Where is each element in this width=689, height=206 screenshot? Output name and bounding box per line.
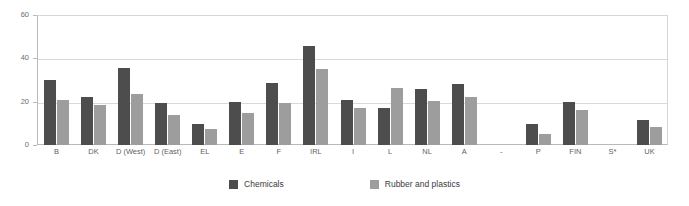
- y-axis: 0204060: [0, 0, 37, 160]
- bar: [576, 110, 588, 145]
- bar-group: [341, 15, 366, 145]
- bar: [81, 97, 93, 145]
- x-tick-label: I: [352, 148, 354, 156]
- bar: [266, 83, 278, 145]
- legend-item[interactable]: Rubber and plastics: [370, 180, 460, 189]
- legend-swatch-icon: [370, 180, 379, 189]
- bar-group: [303, 15, 328, 145]
- x-tick-label: A: [462, 148, 467, 156]
- legend-label: Rubber and plastics: [385, 180, 460, 189]
- bar-group: [118, 15, 143, 145]
- bar-group: [600, 15, 625, 145]
- bar: [391, 88, 403, 145]
- x-tick-label: IRL: [310, 148, 322, 156]
- bar-group: [229, 15, 254, 145]
- bar-group: [155, 15, 180, 145]
- x-axis: BDKD (West)D (East)ELEFIRLILNLA-PFINS*UK: [38, 148, 668, 162]
- bar-group: [81, 15, 106, 145]
- bar: [192, 124, 204, 145]
- x-tick-label: B: [54, 148, 59, 156]
- y-tick-label-0: 0: [25, 141, 29, 149]
- bar: [131, 94, 143, 145]
- bar: [539, 134, 551, 145]
- chart-legend: ChemicalsRubber and plastics: [0, 176, 689, 192]
- y-tick-label-60: 60: [21, 11, 29, 19]
- x-tick-label: -: [500, 148, 503, 156]
- bar-group: [378, 15, 403, 145]
- bar: [155, 103, 167, 145]
- bar: [378, 108, 390, 145]
- x-tick-label: L: [388, 148, 392, 156]
- bar-group: [44, 15, 69, 145]
- bar: [57, 100, 69, 146]
- bar: [316, 69, 328, 145]
- legend-swatch-icon: [229, 180, 238, 189]
- bar-group: [563, 15, 588, 145]
- bar: [465, 97, 477, 145]
- x-tick-label: NL: [422, 148, 432, 156]
- bar: [118, 68, 130, 145]
- bar-group: [415, 15, 440, 145]
- bar-group: [489, 15, 514, 145]
- x-tick-label: DK: [88, 148, 98, 156]
- x-tick-label: P: [536, 148, 541, 156]
- bar-group: [452, 15, 477, 145]
- bar: [526, 124, 538, 145]
- y-tick-mark-0: [33, 145, 37, 146]
- bar: [415, 89, 427, 145]
- bar: [168, 115, 180, 145]
- bar-chart: 0204060 BDKD (West)D (East)ELEFIRLILNLA-…: [0, 0, 689, 206]
- y-tick-label-40: 40: [21, 55, 29, 63]
- bar: [279, 103, 291, 145]
- bar: [428, 101, 440, 145]
- bar: [205, 129, 217, 145]
- bar: [94, 105, 106, 145]
- bar: [637, 120, 649, 145]
- x-tick-label: EL: [200, 148, 209, 156]
- bar-group: [266, 15, 291, 145]
- bar: [563, 102, 575, 145]
- bar: [242, 113, 254, 146]
- bar: [452, 84, 464, 145]
- x-tick-label: S*: [608, 148, 616, 156]
- bar-group: [637, 15, 662, 145]
- legend-label: Chemicals: [244, 180, 284, 189]
- bar-group: [192, 15, 217, 145]
- bar: [229, 102, 241, 145]
- legend-item[interactable]: Chemicals: [229, 180, 284, 189]
- bars-layer: [38, 15, 668, 145]
- bar: [44, 80, 56, 145]
- bar: [341, 100, 353, 146]
- x-tick-label: D (East): [154, 148, 182, 156]
- y-tick-label-20: 20: [21, 98, 29, 106]
- bar: [354, 108, 366, 145]
- x-tick-label: UK: [644, 148, 654, 156]
- bar-group: [526, 15, 551, 145]
- x-tick-label: FIN: [569, 148, 581, 156]
- x-tick-label: D (West): [116, 148, 145, 156]
- bar: [303, 46, 315, 145]
- bar: [650, 127, 662, 145]
- x-tick-label: F: [277, 148, 282, 156]
- x-tick-label: E: [239, 148, 244, 156]
